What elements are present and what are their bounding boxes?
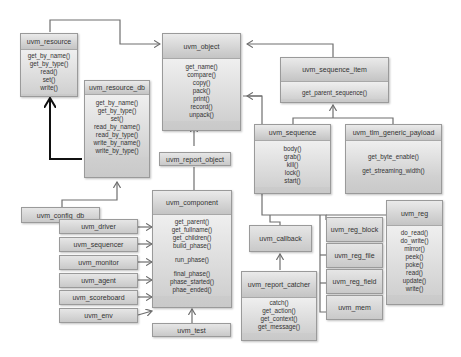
class-name: uvm_callback: [259, 235, 301, 242]
class-uvm-object: uvm_object get_name() compare() copy() p…: [162, 33, 241, 131]
method: get_fullname(): [154, 226, 230, 234]
class-name: uvm_config_db: [37, 212, 84, 219]
method: get_message(): [243, 323, 315, 331]
method-list: do_read() do_write() mirror() peek() pok…: [387, 226, 442, 295]
method: catch(): [243, 299, 315, 307]
class-uvm-agent: uvm_agent: [59, 273, 138, 288]
method: build_phase(): [154, 242, 230, 250]
method-list: get_byte_enable() get_streaming_width(): [346, 141, 441, 177]
method: lock(): [256, 169, 329, 177]
method: copy(): [164, 79, 239, 87]
class-name: uvm_driver: [81, 223, 116, 230]
method: get_byte_enable(): [347, 153, 440, 161]
method: grab(): [256, 153, 329, 161]
method: record(): [164, 103, 239, 111]
class-uvm-component: uvm_component get_parent() get_fullname(…: [152, 190, 232, 308]
class-name: uvm_sequencer: [74, 241, 124, 248]
method-list: get_by_name() get_by_type() set() read_b…: [85, 95, 149, 157]
method: read_by_name(): [86, 123, 148, 131]
method: unpack(): [164, 111, 239, 119]
method: final_phase(): [154, 270, 230, 278]
class-uvm-reg-field: uvm_reg_field: [326, 269, 383, 294]
class-name: uvm_report_object: [166, 156, 224, 163]
class-uvm-reg-file: uvm_reg_file: [326, 243, 383, 268]
class-uvm-report-catcher: uvm_report_catcher catch() get_action() …: [241, 271, 317, 341]
class-uvm-driver: uvm_driver: [59, 219, 138, 234]
class-name: uvm_agent: [81, 277, 116, 284]
method: kill(): [256, 161, 329, 169]
class-uvm-monitor: uvm_monitor: [59, 255, 138, 270]
class-name: uvm_scoreboard: [72, 294, 124, 301]
class-name: uvm_resource_db: [85, 81, 149, 95]
method: mirror(): [388, 245, 441, 253]
method: read(): [22, 68, 76, 76]
class-name: uvm_object: [163, 34, 240, 59]
class-uvm-report-object: uvm_report_object: [159, 152, 231, 166]
method: write_by_type(): [86, 147, 148, 155]
class-name: uvm_reg_field: [333, 278, 377, 285]
class-uvm-resource-db: uvm_resource_db get_by_name() get_by_typ…: [84, 80, 150, 178]
method: get_children(): [154, 234, 230, 242]
method: update(): [388, 277, 441, 285]
method: get_streaming_width(): [347, 167, 440, 175]
class-uvm-resource: uvm_resource get_by_name() get_by_type()…: [20, 33, 78, 97]
method: peek(): [388, 253, 441, 261]
method: get_by_type(): [22, 60, 76, 68]
method-list: get_by_name() get_by_type() read() set()…: [21, 50, 77, 94]
class-name: uvm_monitor: [78, 259, 118, 266]
class-uvm-env: uvm_env: [59, 308, 138, 323]
class-uvm-tlm-generic-payload: uvm_tlm_generic_payload get_byte_enable(…: [345, 124, 442, 194]
method: get_by_name(): [22, 52, 76, 60]
method: get_context(): [243, 315, 315, 323]
method: pack(): [164, 87, 239, 95]
method: write_by_name(): [86, 139, 148, 147]
class-name: uvm_component: [153, 191, 231, 215]
method: get_parent(): [154, 218, 230, 226]
method: get_parent_sequence(): [282, 89, 387, 97]
method: get_action(): [243, 307, 315, 315]
class-name: uvm_env: [84, 312, 112, 319]
class-name: uvm_sequence_item: [281, 58, 388, 82]
class-uvm-sequence: uvm_sequence body() grab() kill() lock()…: [254, 124, 331, 194]
method: read_by_type(): [86, 131, 148, 139]
class-uvm-sequencer: uvm_sequencer: [59, 237, 138, 252]
method: write(): [22, 84, 76, 92]
method: get_name(): [164, 63, 239, 71]
method: body(): [256, 145, 329, 153]
method: read(): [388, 269, 441, 277]
method: write(): [388, 285, 441, 293]
method-list: get_parent_sequence(): [281, 82, 388, 99]
method: print(): [164, 95, 239, 103]
class-name: uvm_resource: [21, 34, 77, 50]
class-uvm-reg: uvm_reg do_read() do_write() mirror() pe…: [386, 200, 443, 305]
method: start(): [256, 177, 329, 185]
method-list: catch() get_action() get_context() get_m…: [242, 298, 316, 333]
class-uvm-test: uvm_test: [152, 323, 231, 337]
class-uvm-sequence-item: uvm_sequence_item get_parent_sequence(): [280, 57, 389, 103]
method: phae_ended(): [154, 286, 230, 294]
class-name: uvm_reg_file: [334, 252, 374, 259]
class-name: uvm_reg_block: [331, 226, 378, 233]
method: set(): [22, 76, 76, 84]
class-uvm-callback: uvm_callback: [249, 225, 312, 252]
class-uvm-scoreboard: uvm_scoreboard: [59, 290, 138, 305]
class-name: uvm_mem: [338, 304, 371, 311]
method: compare(): [164, 71, 239, 79]
class-name: uvm_test: [177, 327, 205, 334]
class-name: uvm_report_catcher: [242, 272, 316, 298]
class-name: uvm_tlm_generic_payload: [346, 125, 441, 141]
class-name: uvm_sequence: [255, 125, 330, 141]
method-list: body() grab() kill() lock() start(): [255, 141, 330, 187]
class-name: uvm_reg: [387, 201, 442, 226]
class-uvm-mem: uvm_mem: [326, 295, 383, 320]
method: poke(): [388, 261, 441, 269]
method: run_phase(): [154, 256, 230, 264]
method: set(): [86, 115, 148, 123]
method: do_read(): [388, 229, 441, 237]
method: get_by_type(): [86, 107, 148, 115]
method-list: get_name() compare() copy() pack() print…: [163, 59, 240, 121]
method: do_write(): [388, 237, 441, 245]
method-list: get_parent() get_fullname() get_children…: [153, 215, 231, 296]
method: get_by_name(): [86, 99, 148, 107]
method: phase_started(): [154, 278, 230, 286]
